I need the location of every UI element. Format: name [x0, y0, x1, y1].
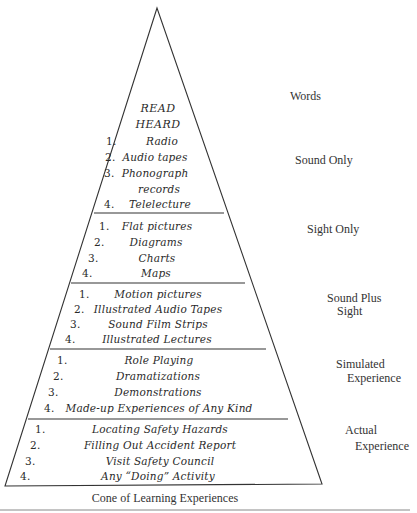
category-sight-only: Sight Only [307, 222, 359, 237]
list-item: Illustrated Audio Tapes [94, 303, 222, 315]
words-read: READ [140, 102, 175, 115]
list-item: Dramatizations [116, 370, 200, 382]
list-item: Maps [141, 267, 171, 279]
list-item: Sound Film Strips [108, 318, 208, 330]
category-words: Words [290, 89, 321, 104]
list-item: Radio [146, 135, 178, 147]
category-simulated-1: Simulated [336, 357, 385, 372]
words-heard: HEARD [135, 118, 180, 131]
diagram-caption: Cone of Learning Experiences [0, 491, 330, 506]
list-item: Visit Safety Council [106, 455, 215, 467]
list-item: Any “Doing” Activity [101, 470, 215, 482]
list-item: Made-up Experiences of Any Kind [65, 402, 252, 414]
category-simulated-2: Experience [347, 371, 401, 386]
list-item: Charts [139, 252, 176, 264]
list-item: records [138, 183, 180, 195]
list-item: Phonograph [122, 167, 189, 179]
category-actual-2: Experience [355, 439, 409, 454]
category-actual-1: Actual [345, 423, 377, 438]
list-item: Motion pictures [114, 288, 202, 300]
list-item: Demonstrations [114, 386, 201, 398]
list-item: Diagrams [130, 236, 183, 248]
category-sound-only: Sound Only [295, 153, 353, 168]
list-item: Flat pictures [122, 220, 193, 232]
list-item: Telelecture [129, 198, 191, 210]
list-item: Filling Out Accident Report [84, 439, 236, 451]
category-sound-plus-sight-2: Sight [337, 304, 362, 319]
list-item: Audio tapes [122, 151, 187, 163]
list-item: Locating Safety Hazards [92, 423, 228, 435]
list-item: Role Playing [125, 354, 194, 366]
list-item: Illustrated Lectures [102, 333, 212, 345]
